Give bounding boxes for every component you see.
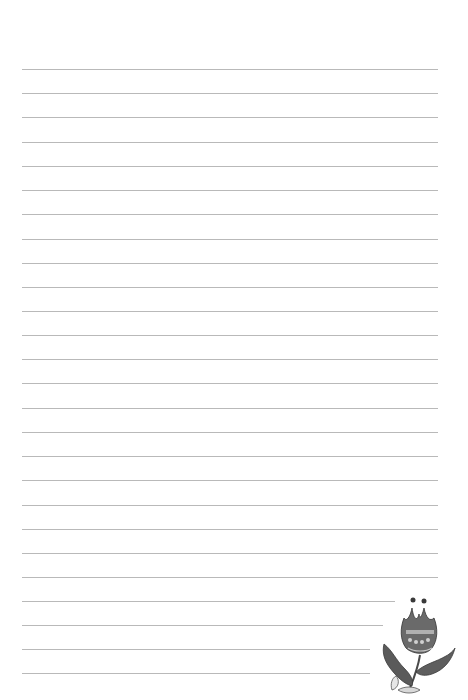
ruled-line bbox=[22, 625, 383, 626]
ruled-line bbox=[22, 142, 438, 143]
ruled-line bbox=[22, 69, 438, 70]
lined-paper-page bbox=[0, 0, 468, 700]
ruled-line bbox=[22, 456, 438, 457]
ruled-line bbox=[22, 553, 438, 554]
ruled-line bbox=[22, 335, 438, 336]
ruled-line bbox=[22, 480, 438, 481]
tulip-flower-icon bbox=[376, 590, 468, 700]
ruled-line bbox=[22, 577, 438, 578]
ruled-line bbox=[22, 93, 438, 94]
ruled-line bbox=[22, 408, 438, 409]
ruled-line bbox=[22, 673, 370, 674]
ruled-line bbox=[22, 287, 438, 288]
ruled-line bbox=[22, 529, 438, 530]
ruled-line bbox=[22, 505, 438, 506]
ruled-line bbox=[22, 432, 438, 433]
ruled-line bbox=[22, 649, 370, 650]
ruled-line bbox=[22, 601, 395, 602]
ruled-line bbox=[22, 117, 438, 118]
ruled-line bbox=[22, 166, 438, 167]
ruled-line bbox=[22, 311, 438, 312]
ruled-line bbox=[22, 214, 438, 215]
ruled-line bbox=[22, 263, 438, 264]
ruled-line bbox=[22, 190, 438, 191]
ruled-line bbox=[22, 359, 438, 360]
ruled-line bbox=[22, 383, 438, 384]
ruled-line bbox=[22, 239, 438, 240]
